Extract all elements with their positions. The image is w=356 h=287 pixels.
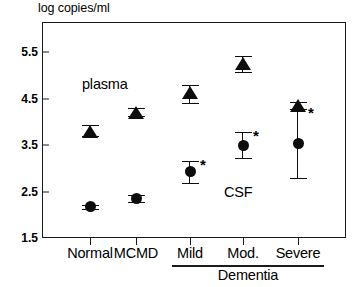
circle-marker bbox=[185, 166, 196, 177]
y-tick-label-1.5: 1.5 bbox=[21, 231, 38, 245]
y-axis-title: log copies/ml bbox=[38, 1, 110, 15]
x-tick-mark-mild bbox=[190, 238, 191, 245]
x-tick-label-mod: Mod. bbox=[227, 245, 258, 261]
error-bar-cap-upper bbox=[182, 161, 199, 162]
circle-marker bbox=[85, 201, 96, 212]
triangle-marker bbox=[82, 125, 98, 138]
y-tick-mark-5.5 bbox=[42, 52, 49, 53]
y-tick-label-2.5: 2.5 bbox=[21, 185, 38, 199]
x-tick-mark-mcmd bbox=[136, 238, 137, 245]
dementia-bracket-label: Dementia bbox=[218, 267, 278, 283]
x-tick-mark-normal bbox=[90, 238, 91, 245]
significance-asterisk: * bbox=[253, 128, 259, 143]
x-tick-mark-mod bbox=[243, 238, 244, 245]
x-tick-label-severe: Severe bbox=[276, 245, 321, 261]
y-axis-ticks: 1.52.53.54.55.5 bbox=[0, 0, 38, 287]
error-bar-cap-lower bbox=[235, 72, 252, 73]
x-tick-label-normal: Normal bbox=[67, 245, 113, 261]
y-tick-mark-3.5 bbox=[42, 145, 49, 146]
x-tick-label-mcmd: MCMD bbox=[114, 245, 158, 261]
significance-asterisk: * bbox=[308, 105, 314, 120]
y-tick-label-3.5: 3.5 bbox=[21, 138, 38, 152]
error-bar-cap-lower bbox=[182, 103, 199, 104]
triangle-marker bbox=[235, 57, 251, 70]
figure-scatter-viral-load: log copies/ml 1.52.53.54.55.5 NormalMCMD… bbox=[0, 0, 356, 287]
x-tick-mark-severe bbox=[298, 238, 299, 245]
triangle-marker bbox=[182, 86, 198, 99]
error-bar-cap-lower bbox=[235, 158, 252, 159]
y-tick-label-4.5: 4.5 bbox=[21, 92, 38, 106]
triangle-marker bbox=[128, 106, 144, 119]
error-bar-cap-lower bbox=[290, 178, 307, 179]
error-bar-cap-upper bbox=[235, 132, 252, 133]
y-tick-mark-2.5 bbox=[42, 191, 49, 192]
significance-asterisk: * bbox=[200, 157, 206, 172]
circle-marker bbox=[238, 140, 249, 151]
y-tick-mark-4.5 bbox=[42, 98, 49, 99]
y-tick-label-5.5: 5.5 bbox=[21, 45, 38, 59]
x-tick-label-mild: Mild bbox=[177, 245, 203, 261]
error-bar-cap-lower bbox=[182, 183, 199, 184]
annotation-csf: CSF bbox=[224, 184, 252, 200]
annotation-plasma: plasma bbox=[82, 76, 128, 92]
circle-marker bbox=[293, 138, 304, 149]
error-bar-cap-upper bbox=[290, 109, 307, 110]
circle-marker bbox=[131, 193, 142, 204]
